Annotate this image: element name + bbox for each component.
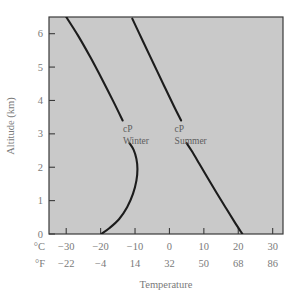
x-tick-label-fahrenheit: 32 bbox=[164, 258, 175, 269]
x-tick-label-celsius: −20 bbox=[92, 241, 108, 252]
y-tick-label: 5 bbox=[38, 62, 43, 73]
y-tick-label: 0 bbox=[38, 229, 43, 240]
x-tick-label-celsius: −10 bbox=[127, 241, 143, 252]
x-tick-label-fahrenheit: 68 bbox=[233, 258, 244, 269]
x-axis-fahrenheit-tick-labels: −22−41432506886 bbox=[58, 258, 278, 269]
x-tick-label-celsius: 20 bbox=[233, 241, 244, 252]
y-tick-label: 6 bbox=[38, 28, 43, 39]
curve-label-cp-winter-line1: cP bbox=[123, 124, 133, 134]
x-tick-label-celsius: 0 bbox=[167, 241, 172, 252]
fahrenheit-unit-label: °F bbox=[35, 258, 45, 269]
x-axis-title: Temperature bbox=[140, 279, 193, 290]
y-axis-title: Altitude (km) bbox=[5, 97, 17, 155]
y-tick-label: 2 bbox=[38, 162, 43, 173]
plot-area-background bbox=[49, 17, 283, 234]
x-axis-celsius-tick-labels: −30−20−100102030 bbox=[58, 241, 278, 252]
y-tick-label: 1 bbox=[38, 195, 43, 206]
curve-label-cp-summer-line2: Summer bbox=[175, 136, 208, 146]
chart-canvas: 0123456 −30−20−100102030 −22−41432506886… bbox=[0, 0, 300, 301]
y-tick-label: 4 bbox=[38, 95, 44, 106]
x-tick-label-fahrenheit: −22 bbox=[58, 258, 74, 269]
x-tick-label-celsius: −30 bbox=[58, 241, 74, 252]
celsius-unit-label: °C bbox=[34, 241, 45, 252]
curve-label-cp-summer-line1: cP bbox=[175, 124, 185, 134]
x-tick-label-fahrenheit: 50 bbox=[199, 258, 210, 269]
y-tick-label: 3 bbox=[38, 128, 43, 139]
curve-label-cp-winter-line2: Winter bbox=[123, 136, 150, 146]
temperature-altitude-chart: 0123456 −30−20−100102030 −22−41432506886… bbox=[0, 0, 300, 301]
x-tick-label-fahrenheit: −4 bbox=[95, 258, 107, 269]
y-axis-tick-labels: 0123456 bbox=[38, 28, 44, 239]
x-tick-label-celsius: 10 bbox=[199, 241, 210, 252]
x-tick-label-fahrenheit: 86 bbox=[267, 258, 278, 269]
x-tick-label-celsius: 30 bbox=[267, 241, 278, 252]
x-tick-label-fahrenheit: 14 bbox=[130, 258, 141, 269]
